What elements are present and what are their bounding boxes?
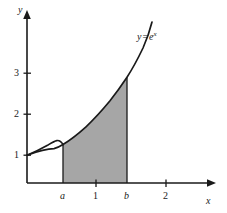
x-tick-label-b: b xyxy=(124,191,129,201)
x-tick-label-2: 2 xyxy=(163,191,168,201)
exponential-area-figure: y x 1 2 3 a 1 b 2 y=ex xyxy=(0,0,227,213)
y-tick-label-2: 2 xyxy=(14,109,19,119)
curve-label-exponent: x xyxy=(154,30,157,38)
x-axis-label: x xyxy=(206,196,210,206)
x-tick-label-1: 1 xyxy=(93,191,98,201)
y-tick-label-1: 1 xyxy=(14,150,19,160)
curve-label-equals: = xyxy=(141,31,149,42)
curve-equation-label: y=ex xyxy=(137,31,157,42)
shaded-area-under-curve xyxy=(63,77,127,183)
x-tick-label-a: a xyxy=(60,191,65,201)
y-tick-label-3: 3 xyxy=(14,68,19,78)
y-axis-label: y xyxy=(18,5,22,15)
y-axis-arrowhead xyxy=(23,10,31,19)
x-axis-arrowhead xyxy=(207,179,216,187)
plot-canvas xyxy=(0,0,227,213)
